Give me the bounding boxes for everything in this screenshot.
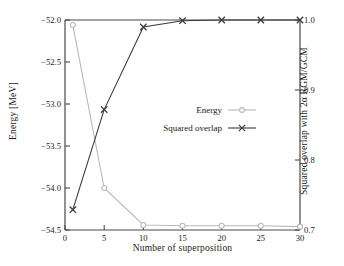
legend: Energy Squared overlap [163,105,256,133]
left-axis-ticks: −54.5 −54.0 −53.5 −53.0 −52.5 −52.0 [41,15,70,235]
data-point-circle-icon [70,23,75,28]
data-point-x-icon [101,106,107,112]
left-tick-label-5: −52.0 [41,15,61,25]
series-line [73,20,300,210]
data-point-circle-icon [219,223,224,228]
series-squared-overlap [70,17,304,213]
chart-figure: −54.5 −54.0 −53.5 −53.0 −52.5 −52.0 0.7 … [0,0,344,266]
x-tick-label-0: 0 [63,233,67,243]
x-tick-label-1: 5 [102,233,106,243]
left-tick-label-2: −53.5 [41,141,61,151]
x-tick-label-3: 15 [178,233,187,243]
data-point-circle-icon [258,223,263,228]
x-tick-label-6: 30 [296,233,305,243]
y-axis-label-left: Energy [MeV] [8,51,18,171]
data-point-circle-icon [180,223,185,228]
left-tick-label-4: −52.5 [41,57,61,67]
x-tick-label-2: 10 [139,233,148,243]
x-tick-label-5: 25 [257,233,266,243]
data-point-x-icon [70,207,76,213]
data-point-circle-icon [102,186,107,191]
legend-marker-circle-icon [240,108,245,113]
left-tick-label-0: −54.5 [41,225,61,235]
legend-label-overlap: Squared overlap [163,123,222,133]
x-tick-label-4: 20 [217,233,226,243]
y-axis-label-right: Squared overlap with 2α RGM/GCM [299,16,309,226]
x-axis-label: Number of superposition [65,243,300,253]
left-tick-label-1: −54.0 [41,183,61,193]
legend-label-energy: Energy [196,105,222,115]
left-tick-label-3: −53.0 [41,99,61,109]
data-point-circle-icon [141,222,146,227]
line-chart-canvas: −54.5 −54.0 −53.5 −53.0 −52.5 −52.0 0.7 … [0,0,344,266]
right-tick-label-0: 0.7 [304,225,315,235]
